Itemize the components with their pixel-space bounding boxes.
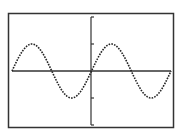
graph-screen: [0, 0, 184, 140]
